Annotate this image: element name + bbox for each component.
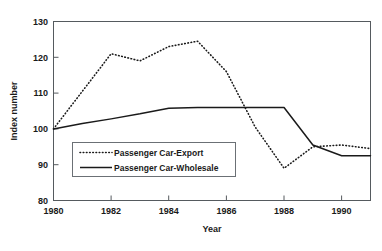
- x-axis-title: Year: [202, 224, 222, 234]
- y-tick-label: 80: [38, 196, 48, 206]
- line-chart: 130 120 110 100 90 80 1980 1982 1984 198…: [0, 0, 382, 251]
- y-tick-label: 130: [33, 17, 48, 27]
- y-tick-label: 100: [33, 124, 48, 134]
- y-tick-label: 90: [38, 160, 48, 170]
- x-tick-label: 1986: [216, 206, 236, 216]
- x-tick-label: 1984: [159, 206, 179, 216]
- y-axis-tick-labels: 130 120 110 100 90 80: [33, 17, 48, 206]
- x-axis-tick-labels: 1980 1982 1984 1986 1988 1990: [43, 206, 351, 216]
- x-axis-ticks: [54, 196, 342, 201]
- x-tick-label: 1988: [274, 206, 294, 216]
- y-tick-label: 120: [33, 53, 48, 63]
- y-tick-label: 110: [33, 88, 48, 98]
- legend-label-export: Passenger Car-Export: [114, 148, 203, 158]
- legend-label-wholesale: Passenger Car-Wholesale: [114, 163, 219, 173]
- chart-legend: Passenger Car-Export Passenger Car-Whole…: [73, 143, 236, 177]
- chart-figure: 130 120 110 100 90 80 1980 1982 1984 198…: [0, 0, 382, 251]
- y-axis-title: Index number: [9, 81, 19, 141]
- x-tick-label: 1982: [101, 206, 121, 216]
- x-tick-label: 1990: [332, 206, 352, 216]
- x-tick-label: 1980: [43, 206, 63, 216]
- y-axis-ticks: [54, 22, 59, 201]
